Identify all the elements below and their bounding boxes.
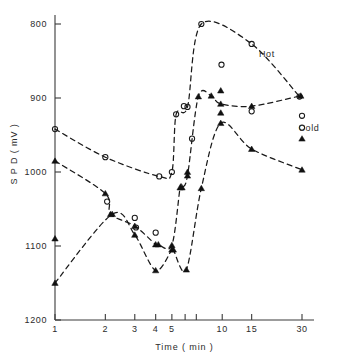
marker-s3-p0 xyxy=(105,199,110,204)
axes xyxy=(55,15,314,320)
marker-s4-p3 xyxy=(218,110,224,115)
y-tick-label-900: 900 xyxy=(30,93,47,103)
curve-series-1 xyxy=(55,90,301,249)
marker-s0-p7 xyxy=(249,41,254,46)
chart-figure: 80090010001100120012345101530 HotCold Ti… xyxy=(0,0,339,360)
axis-ticks xyxy=(55,24,302,320)
x-tick-label-3: 3 xyxy=(132,324,138,334)
chart-canvas: 80090010001100120012345101530 HotCold Ti… xyxy=(0,0,339,360)
marker-s4-p4 xyxy=(299,136,305,141)
x-tick-label-30: 30 xyxy=(296,324,307,334)
annotation-hot: Hot xyxy=(259,49,275,59)
x-tick-label-2: 2 xyxy=(103,324,109,334)
marker-s4-p1 xyxy=(184,169,190,174)
axis-tick-labels: 80090010001100120012345101530 xyxy=(25,19,308,334)
annotation-cold: Cold xyxy=(298,123,319,133)
y-tick-label-1200: 1200 xyxy=(25,315,47,325)
marker-s3-p4 xyxy=(181,104,186,109)
marker-s4-p0 xyxy=(52,236,58,241)
series-annotations: HotCold xyxy=(259,49,319,133)
x-tick-label-5: 5 xyxy=(169,324,175,334)
x-tick-label-10: 10 xyxy=(217,324,228,334)
y-tick-label-800: 800 xyxy=(30,19,47,29)
data-markers xyxy=(52,21,305,285)
marker-s3-p3 xyxy=(153,230,158,235)
marker-s1-p0 xyxy=(52,158,58,163)
x-tick-label-15: 15 xyxy=(246,324,257,334)
x-tick-label-4: 4 xyxy=(153,324,159,334)
y-axis-title: S P D ( mV ) xyxy=(9,123,19,184)
x-tick-label-1: 1 xyxy=(52,324,58,334)
marker-s3-p7 xyxy=(249,109,254,114)
marker-s4-p2 xyxy=(218,88,224,93)
y-tick-label-1000: 1000 xyxy=(25,167,47,177)
marker-s3-p6 xyxy=(219,62,224,67)
marker-s2-p7 xyxy=(198,185,204,190)
data-curves xyxy=(55,21,302,283)
marker-s1-p10 xyxy=(195,93,201,98)
marker-s3-p8 xyxy=(299,113,304,118)
x-axis-title: Time ( min ) xyxy=(155,342,213,352)
marker-s2-p6 xyxy=(183,267,189,272)
y-tick-label-1100: 1100 xyxy=(25,241,47,251)
marker-s1-p11 xyxy=(208,93,214,98)
marker-s3-p1 xyxy=(132,215,137,220)
